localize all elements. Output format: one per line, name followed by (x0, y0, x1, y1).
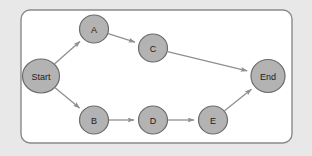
node-shape-end[interactable] (251, 60, 285, 93)
node-b[interactable]: B (80, 106, 109, 134)
node-start[interactable]: Start (23, 59, 60, 93)
node-shape-b[interactable] (80, 106, 109, 134)
node-shape-d[interactable] (139, 106, 168, 134)
node-end[interactable]: End (251, 60, 285, 93)
diagram-canvas: StartACBDEEnd (0, 0, 312, 156)
node-shape-start[interactable] (23, 59, 60, 93)
node-d[interactable]: D (139, 106, 168, 134)
node-e[interactable]: E (199, 106, 228, 134)
node-shape-a[interactable] (80, 15, 109, 43)
node-a[interactable]: A (80, 15, 109, 43)
flowchart-svg: StartACBDEEnd (0, 0, 312, 156)
node-shape-e[interactable] (199, 106, 228, 134)
node-c[interactable]: C (139, 34, 168, 62)
node-shape-c[interactable] (139, 34, 168, 62)
